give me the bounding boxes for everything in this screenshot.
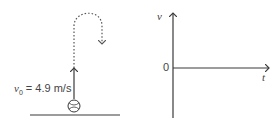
trajectory-path <box>74 13 102 68</box>
velocity-subscript: 0 <box>19 89 23 96</box>
y-axis-label: v <box>157 10 162 22</box>
initial-velocity-label: v0 = 4.9 m/s <box>14 82 71 96</box>
diagram-svg <box>0 0 279 124</box>
origin-label: 0 <box>163 61 169 73</box>
velocity-value: = 4.9 m/s <box>26 82 72 94</box>
x-axis-label: t <box>262 71 265 83</box>
ball-icon <box>68 100 80 112</box>
diagram: v0 = 4.9 m/s v 0 t <box>0 0 279 124</box>
